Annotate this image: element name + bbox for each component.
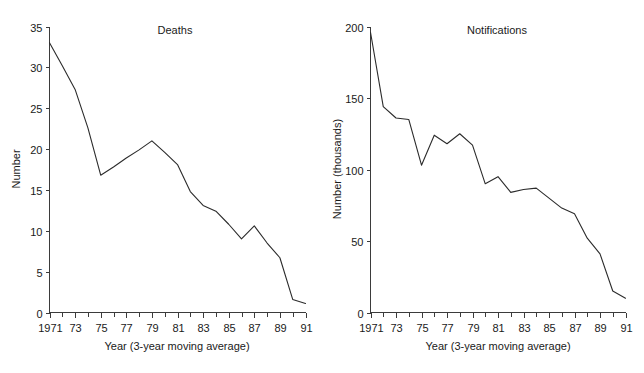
x-tick-label: 77 — [441, 322, 453, 334]
chart-panel-deaths: 05101520253035 197173757779818385878991 … — [0, 0, 322, 373]
x-tick-label: 87 — [248, 322, 260, 334]
y-tick-label: 200 — [345, 22, 363, 34]
chart-panel-notifications: 050100150200 197173757779818385878991 No… — [322, 0, 644, 373]
y-tick-label: 15 — [30, 185, 42, 197]
x-tick-label: 89 — [594, 322, 606, 334]
deaths-y-axis-title: Number — [10, 149, 22, 188]
notifications-x-tick-labels: 197173757779818385878991 — [359, 322, 632, 334]
deaths-x-tick-marks — [51, 313, 307, 318]
x-tick-label: 81 — [492, 322, 504, 334]
deaths-y-tick-marks — [46, 28, 50, 314]
x-tick-label: 1971 — [359, 322, 383, 334]
notifications-axes — [371, 27, 626, 313]
deaths-axis-lines — [50, 27, 306, 313]
x-tick-label: 89 — [274, 322, 286, 334]
deaths-data-line — [50, 43, 306, 304]
y-tick-label: 30 — [30, 62, 42, 74]
deaths-x-axis-title: Year (3-year moving average) — [104, 340, 249, 352]
x-tick-label: 91 — [300, 322, 312, 334]
y-tick-label: 100 — [345, 165, 363, 177]
notifications-axis-lines — [371, 27, 626, 313]
x-tick-label: 87 — [569, 322, 581, 334]
notifications-data-line — [371, 32, 626, 298]
x-tick-label: 73 — [69, 322, 81, 334]
x-tick-label: 91 — [620, 322, 632, 334]
x-tick-label: 75 — [416, 322, 428, 334]
y-tick-label: 0 — [36, 308, 42, 320]
notifications-x-axis-title: Year (3-year moving average) — [425, 340, 570, 352]
x-tick-label: 75 — [95, 322, 107, 334]
x-tick-label: 79 — [146, 322, 158, 334]
x-tick-label: 79 — [467, 322, 479, 334]
notifications-chart-svg: 050100150200 197173757779818385878991 No… — [322, 0, 644, 373]
deaths-x-tick-labels: 197173757779818385878991 — [38, 322, 312, 334]
deaths-y-tick-labels: 05101520253035 — [30, 22, 42, 320]
x-tick-label: 83 — [197, 322, 209, 334]
y-tick-label: 150 — [345, 93, 363, 105]
y-tick-label: 5 — [36, 267, 42, 279]
figure-container: 05101520253035 197173757779818385878991 … — [0, 0, 644, 373]
y-tick-label: 25 — [30, 103, 42, 115]
notifications-panel-title: Notifications — [467, 24, 527, 36]
x-tick-label: 73 — [390, 322, 402, 334]
x-tick-label: 77 — [120, 322, 132, 334]
notifications-y-tick-marks — [367, 28, 371, 314]
x-tick-label: 1971 — [38, 322, 62, 334]
y-tick-label: 50 — [351, 236, 363, 248]
deaths-chart-svg: 05101520253035 197173757779818385878991 … — [0, 0, 322, 373]
deaths-panel-title: Deaths — [158, 24, 193, 36]
y-tick-label: 10 — [30, 226, 42, 238]
x-tick-label: 85 — [543, 322, 555, 334]
notifications-x-tick-marks — [372, 313, 627, 318]
deaths-axes — [50, 27, 306, 313]
y-tick-label: 20 — [30, 144, 42, 156]
notifications-y-axis-title: Number (thousands) — [331, 119, 343, 219]
x-tick-label: 83 — [518, 322, 530, 334]
x-tick-label: 81 — [172, 322, 184, 334]
y-tick-label: 35 — [30, 22, 42, 34]
y-tick-label: 0 — [357, 308, 363, 320]
notifications-y-tick-labels: 050100150200 — [345, 22, 363, 320]
x-tick-label: 85 — [223, 322, 235, 334]
